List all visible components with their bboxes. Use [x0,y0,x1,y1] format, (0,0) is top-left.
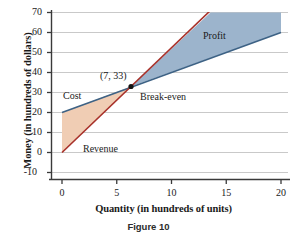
profit-label: Profit [203,30,226,41]
xtick-label-0: 0 [51,187,73,198]
revenue-label: Revenue [83,143,118,154]
profit-region [131,13,281,87]
xtick-label-15: 15 [215,187,237,198]
y-axis-title: Money (in hundreds of dollars) [22,11,33,191]
revenue-line [62,9,212,153]
figure-10-container: 70 60 50 40 30 20 10 0 -10 0 5 10 15 20 … [0,0,297,239]
xtick-label-5: 5 [106,187,128,198]
break-even-dot [128,84,133,89]
xtick-label-20: 20 [270,187,292,198]
xtick-label-10: 10 [161,187,183,198]
break-even-coordinate-label: (7, 33) [100,70,127,81]
cost-label: Cost [63,90,81,101]
x-axis-title: Quantity (in hundreds of units) [30,203,297,214]
figure-caption: Figure 10 [0,221,297,232]
break-even-label: Break-even [140,91,186,102]
